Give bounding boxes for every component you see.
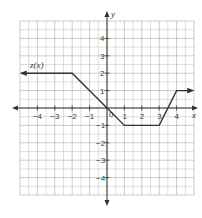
y-axis-bottom-arrow-icon <box>105 200 110 206</box>
y-tick-label: −2 <box>96 139 106 148</box>
x-tick-label: 4 <box>175 112 180 121</box>
x-tick-label: −1 <box>85 112 95 121</box>
x-tick-label: −4 <box>33 112 43 121</box>
x-tick-label: 2 <box>140 112 145 121</box>
y-axis-label: y <box>110 9 115 19</box>
y-tick-label: 2 <box>100 69 105 78</box>
line-right-arrow-icon <box>187 88 194 94</box>
x-tick-label: 1 <box>122 112 127 121</box>
x-tick-label: −3 <box>50 112 60 121</box>
x-tick-label: −2 <box>68 112 78 121</box>
y-tick-label: 4 <box>100 34 105 43</box>
y-tick-label: −4 <box>96 174 106 183</box>
x-axis-left-arrow-icon <box>12 106 18 111</box>
y-tick-label: −1 <box>96 121 106 130</box>
y-tick-label: 1 <box>100 87 105 96</box>
x-axis-label: x <box>191 110 196 120</box>
coordinate-plane: −4−3−2−112344321−1−2−3−4 x y 0 z(x) <box>0 0 202 218</box>
y-axis-top-arrow-icon <box>105 11 110 17</box>
line-left-arrow-icon <box>20 70 27 76</box>
y-tick-label: −3 <box>96 156 106 165</box>
y-tick-label: 3 <box>100 52 105 61</box>
function-label: z(x) <box>29 60 44 70</box>
